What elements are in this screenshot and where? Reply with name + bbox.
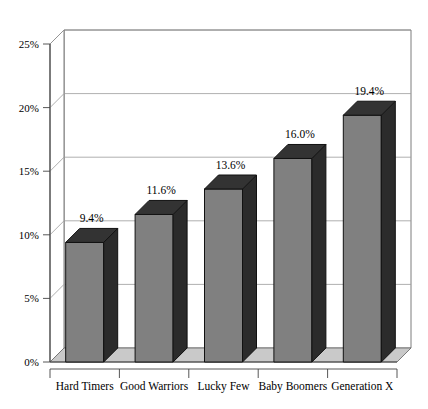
ytick-label: 10%	[19, 229, 39, 241]
bar-value-label: 13.6%	[216, 159, 246, 171]
category-label: Lucky Few	[197, 380, 250, 393]
bar-value-label: 11.6%	[146, 184, 176, 196]
bar-side-face	[381, 101, 395, 362]
ytick-label: 20%	[19, 102, 39, 114]
bar-side-face	[173, 200, 187, 362]
bar-front-face	[135, 214, 173, 362]
plot-left-wall	[50, 30, 64, 362]
bar-side-face	[104, 228, 118, 362]
bar-column[interactable]	[343, 101, 395, 362]
bar-value-label: 19.4%	[354, 85, 384, 97]
category-label: Hard Timers	[56, 380, 114, 392]
bar-column[interactable]	[66, 228, 118, 362]
bar-side-face	[312, 144, 326, 362]
bar-chart: 0%5%10%15%20%25%9.4%Hard Timers11.6%Good…	[0, 0, 428, 409]
ytick-label: 0%	[24, 356, 39, 368]
bar-front-face	[343, 115, 381, 362]
ytick-label: 15%	[19, 165, 39, 177]
ytick-label: 25%	[19, 38, 39, 50]
bar-front-face	[205, 189, 243, 362]
bar-column[interactable]	[205, 175, 257, 362]
category-label: Good Warriors	[120, 380, 189, 392]
bar-value-label: 16.0%	[285, 128, 315, 140]
bar-front-face	[274, 158, 312, 362]
category-label: Baby Boomers	[259, 380, 328, 393]
ytick-label: 5%	[24, 292, 39, 304]
bar-side-face	[243, 175, 257, 362]
bar-column[interactable]	[274, 144, 326, 362]
bar-column[interactable]	[135, 200, 187, 362]
bar-front-face	[66, 242, 104, 362]
bar-value-label: 9.4%	[80, 212, 104, 224]
chart-canvas: 0%5%10%15%20%25%9.4%Hard Timers11.6%Good…	[0, 0, 428, 409]
category-label: Generation X	[331, 380, 394, 392]
